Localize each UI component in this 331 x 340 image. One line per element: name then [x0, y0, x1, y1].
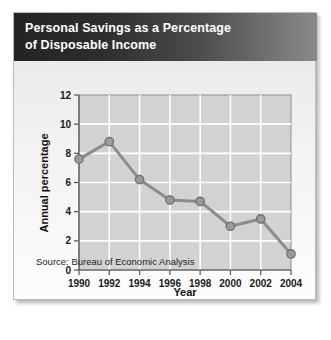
data-point-marker	[196, 197, 204, 205]
y-tick-label: 8	[65, 148, 71, 159]
y-tick-label: 10	[60, 119, 72, 130]
x-tick-label: 1994	[128, 278, 151, 289]
x-tick-label: 2002	[250, 278, 273, 289]
data-point-marker	[105, 137, 113, 145]
x-tick-label: 2000	[219, 278, 242, 289]
data-point-marker	[166, 196, 174, 204]
x-axis-title: Year	[173, 286, 197, 298]
source-note: Source: Bureau of Economic Analysis	[36, 256, 194, 267]
x-tick-label: 1990	[68, 278, 91, 289]
data-point-marker	[287, 250, 295, 258]
y-axis-title: Annual percentage	[38, 133, 50, 232]
data-point-marker	[257, 215, 265, 223]
y-tick-label: 4	[65, 206, 71, 217]
data-point-marker	[75, 155, 83, 163]
data-point-marker	[226, 222, 234, 230]
y-tick-label: 6	[65, 177, 71, 188]
page-title-line-2: of Disposable Income	[25, 37, 307, 54]
y-tick-label: 2	[65, 235, 71, 246]
y-axis-tick-labels: 024681012	[60, 90, 72, 276]
y-tick-label: 12	[60, 90, 72, 101]
x-tick-label: 1992	[98, 278, 121, 289]
chart-title-bar: Personal Savings as a Percentage of Disp…	[14, 13, 317, 61]
x-tick-label: 2004	[280, 278, 303, 289]
data-point-marker	[135, 175, 143, 183]
page-title-line-1: Personal Savings as a Percentage	[25, 20, 307, 37]
x-axis-ticks	[79, 270, 291, 275]
chart-card: Personal Savings as a Percentage of Disp…	[13, 12, 316, 300]
y-axis-ticks	[74, 95, 79, 270]
